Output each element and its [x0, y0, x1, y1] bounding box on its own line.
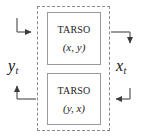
tarso-inverse-block[interactable]: TARSO (y, x)	[47, 73, 101, 125]
tarso-forward-block[interactable]: TARSO (x, y)	[47, 12, 101, 65]
connector-output-top-right	[111, 32, 130, 43]
tarso-forward-title: TARSO	[58, 23, 91, 36]
tarso-inverse-args: (y, x)	[63, 102, 85, 115]
signal-subscript-x: t	[124, 65, 127, 76]
signal-subscript-y: t	[16, 65, 19, 76]
connector-output-bottom-left	[17, 86, 36, 99]
tarso-inverse-title: TARSO	[58, 84, 91, 97]
signal-symbol-y: y	[8, 57, 15, 74]
signal-symbol-x: x	[116, 57, 123, 74]
tarso-forward-args: (x, y)	[63, 41, 86, 54]
signal-label-x-t: xt	[116, 57, 126, 80]
tarso-block-diagram: TARSO (x, y) TARSO (y, x) yt xt	[0, 0, 144, 139]
connector-input-bottom-right	[116, 88, 130, 99]
connector-input-top-left	[17, 18, 31, 32]
signal-label-y-t: yt	[8, 57, 18, 80]
